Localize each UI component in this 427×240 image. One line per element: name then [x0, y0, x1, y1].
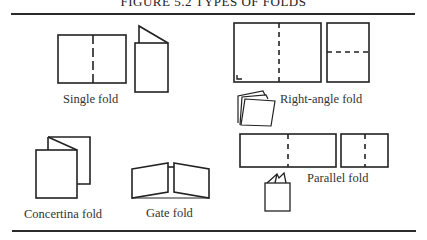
- concertina-fold-icon: [36, 137, 90, 198]
- right-angle-small-sheet: [327, 23, 369, 82]
- parallel-large-sheet: [240, 134, 336, 167]
- folds-diagram: [0, 0, 427, 240]
- label-concertina-fold: Concertina fold: [24, 208, 102, 221]
- parallel-folded-icon: [265, 173, 290, 211]
- right-angle-large-sheet: [234, 23, 321, 82]
- label-right-angle-fold: Right-angle fold: [280, 93, 362, 106]
- label-parallel-fold: Parallel fold: [307, 172, 368, 185]
- label-single-fold: Single fold: [63, 93, 118, 106]
- single-fold-folded: [135, 26, 168, 92]
- single-fold-open-sheet: [58, 35, 126, 83]
- gate-fold-icon: [132, 163, 209, 198]
- label-gate-fold: Gate fold: [146, 207, 193, 220]
- parallel-small-sheet: [341, 134, 388, 167]
- right-angle-folded-icon: [238, 91, 275, 126]
- bottom-rule: [12, 230, 416, 232]
